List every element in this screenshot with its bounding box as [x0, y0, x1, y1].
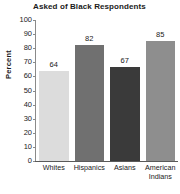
y-tick-mark: [33, 62, 35, 63]
y-tick-mark: [33, 161, 35, 162]
bar-slot: 82: [72, 20, 108, 161]
y-tick-label: 10: [0, 143, 32, 151]
bar-value-label: 82: [72, 35, 108, 43]
bars-group: 64826785: [36, 20, 178, 161]
y-tick-mark: [33, 20, 35, 21]
y-tick-label: 40: [0, 101, 32, 109]
y-tick-label: 100: [0, 16, 32, 24]
y-tick-label: 0: [0, 157, 32, 165]
bar-value-label: 67: [107, 57, 143, 65]
x-tick-label: AmericanIndians: [140, 163, 180, 181]
y-tick-label: 50: [0, 87, 32, 95]
chart-title: Asked of Black Respondents: [0, 2, 179, 12]
bar[interactable]: [146, 41, 176, 161]
y-tick-mark: [33, 91, 35, 92]
y-tick-label: 20: [0, 129, 32, 137]
y-tick-mark: [33, 34, 35, 35]
y-tick-mark: [33, 105, 35, 106]
bar-slot: 67: [107, 20, 143, 161]
y-tick-label: 70: [0, 58, 32, 66]
y-tick-mark: [33, 76, 35, 77]
y-tick-label: 90: [0, 30, 32, 38]
y-tick-mark: [33, 48, 35, 49]
bar-value-label: 85: [143, 31, 179, 39]
y-tick-label: 30: [0, 115, 32, 123]
bar-slot: 85: [143, 20, 179, 161]
bar-slot: 64: [36, 20, 72, 161]
bar-value-label: 64: [36, 61, 72, 69]
bar[interactable]: [39, 71, 69, 161]
y-tick-label: 60: [0, 72, 32, 80]
bar[interactable]: [110, 67, 140, 161]
bar[interactable]: [75, 45, 105, 161]
x-axis-line: [35, 161, 178, 162]
y-tick-label: 80: [0, 44, 32, 52]
bar-chart: Asked of Black Respondents Percent 10090…: [0, 0, 179, 194]
y-tick-mark: [33, 133, 35, 134]
x-axis-labels: WhitesHispanicsAsiansAmericanIndians: [36, 163, 178, 191]
y-tick-mark: [33, 147, 35, 148]
y-tick-mark: [33, 119, 35, 120]
